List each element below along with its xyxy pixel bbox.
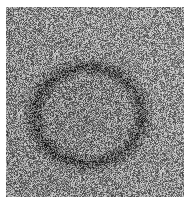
- photo-frame: [6, 7, 184, 197]
- fairy-ring-grass-photo: [6, 7, 184, 197]
